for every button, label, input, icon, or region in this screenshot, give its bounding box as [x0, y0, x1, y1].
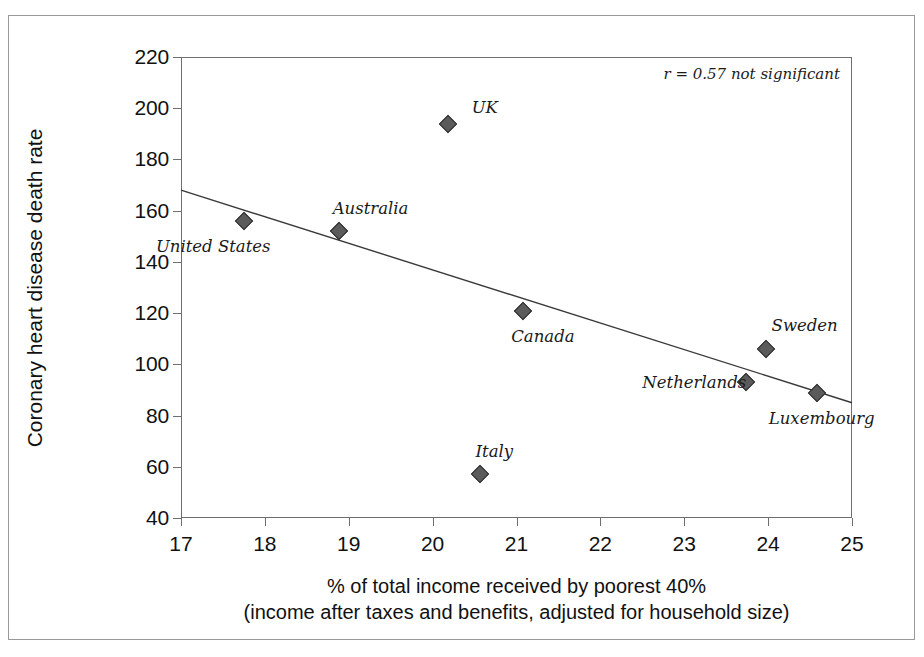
correlation-annotation: r = 0.57 not significant — [663, 65, 840, 83]
y-tick-label: 100 — [135, 352, 169, 376]
x-tick-label: 17 — [169, 532, 192, 556]
x-tick-mark — [181, 518, 182, 526]
y-tick-mark — [173, 364, 181, 365]
y-tick-mark — [173, 211, 181, 212]
data-point-label: Sweden — [772, 316, 838, 335]
x-tick-mark — [517, 518, 518, 526]
y-tick-mark — [173, 518, 181, 519]
y-axis-title: Coronary heart disease death rate — [18, 57, 52, 518]
data-point-label: Australia — [333, 199, 409, 218]
y-tick-label: 80 — [146, 404, 169, 428]
data-point-label: Italy — [476, 442, 514, 461]
y-tick-label: 160 — [135, 199, 169, 223]
y-tick-mark — [173, 262, 181, 263]
y-tick-mark — [173, 108, 181, 109]
y-tick-label: 200 — [135, 96, 169, 120]
x-axis-title-line1: % of total income received by poorest 40… — [327, 575, 706, 597]
y-tick-mark — [173, 416, 181, 417]
x-tick-mark — [768, 518, 769, 526]
y-tick-label: 220 — [135, 45, 169, 69]
x-tick-label: 21 — [505, 532, 528, 556]
x-tick-label: 22 — [589, 532, 612, 556]
x-tick-mark — [349, 518, 350, 526]
x-tick-mark — [265, 518, 266, 526]
x-axis-title-line2: (income after taxes and benefits, adjust… — [181, 599, 852, 625]
x-axis-title: % of total income received by poorest 40… — [181, 573, 852, 625]
x-tick-label: 19 — [337, 532, 360, 556]
x-tick-mark — [684, 518, 685, 526]
x-tick-mark — [433, 518, 434, 526]
plot-area: 406080100120140160180200220 171819202122… — [181, 57, 852, 518]
data-point-label: Canada — [511, 327, 574, 346]
y-tick-mark — [173, 57, 181, 58]
y-tick-mark — [173, 313, 181, 314]
y-tick-label: 40 — [146, 506, 169, 530]
y-tick-label: 180 — [135, 147, 169, 171]
figure: Coronary heart disease death rate 406080… — [0, 0, 924, 657]
y-tick-label: 120 — [135, 301, 169, 325]
x-tick-mark — [600, 518, 601, 526]
x-tick-label: 20 — [421, 532, 444, 556]
data-point-label: United States — [156, 237, 271, 256]
x-tick-label: 24 — [756, 532, 779, 556]
x-tick-mark — [852, 518, 853, 526]
plot-border — [181, 57, 852, 518]
y-tick-mark — [173, 159, 181, 160]
data-point-label: Netherlands — [642, 373, 746, 392]
x-tick-label: 23 — [673, 532, 696, 556]
y-tick-label: 60 — [146, 455, 169, 479]
y-tick-mark — [173, 467, 181, 468]
x-tick-label: 18 — [253, 532, 276, 556]
data-point-label: Luxembourg — [769, 409, 875, 428]
y-axis-title-text: Coronary heart disease death rate — [23, 128, 47, 447]
data-point-label: UK — [472, 98, 498, 117]
x-tick-label: 25 — [840, 532, 863, 556]
